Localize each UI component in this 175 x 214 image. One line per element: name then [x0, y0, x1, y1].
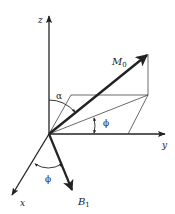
- b1-label-main: B: [77, 196, 85, 207]
- z-axis-label: z: [37, 15, 43, 25]
- x-axis: [12, 134, 49, 195]
- projection-line-diagonal: [49, 95, 148, 134]
- b1-vector: [49, 134, 72, 190]
- projection-line-right: [128, 95, 148, 134]
- m0-vector: [49, 55, 147, 134]
- m0-label: M0: [111, 56, 127, 69]
- phi-upper-arc: [94, 118, 95, 133]
- phi-lower-arc: [35, 164, 62, 168]
- x-axis-label: x: [20, 198, 25, 208]
- m0-label-main: M: [111, 56, 123, 67]
- y-axis-label: y: [161, 140, 168, 150]
- alpha-label: α: [56, 91, 62, 101]
- m0-label-subscript: 0: [122, 61, 126, 69]
- phi-lower-label: ϕ: [45, 174, 51, 184]
- b1-label-subscript: 1: [85, 201, 89, 209]
- b1-label: B1: [77, 196, 90, 209]
- vector-diagram: z y x M0 B1 α ϕ ϕ: [0, 0, 175, 214]
- phi-upper-label: ϕ: [103, 118, 109, 128]
